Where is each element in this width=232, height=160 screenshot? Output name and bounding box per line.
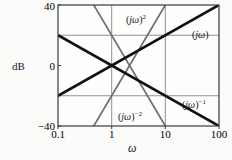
curve-annotation-jw-inverse-squared: (jω)−2 xyxy=(118,112,142,122)
xtick-label-1-wrap: 1 xyxy=(92,128,132,140)
curve-annotation-jw: (jω) xyxy=(192,30,209,40)
y-axis-label: dB xyxy=(12,61,25,72)
xtick-label-10-wrap: 10 xyxy=(145,128,185,140)
xtick-label-0p1-wrap: 0.1 xyxy=(38,128,78,140)
ytick-label-40-wrap: 40 xyxy=(26,0,55,12)
ytick-label-40: 40 xyxy=(26,0,55,12)
x-axis-label: ω xyxy=(128,142,136,154)
curve-annotation-jw-inverse: (jω)−1 xyxy=(182,100,206,110)
ytick-label-0-wrap: 0 xyxy=(26,60,55,72)
xtick-label-100-wrap: 100 xyxy=(199,128,232,140)
xtick-label-1: 1 xyxy=(92,128,132,140)
curve-annotation-jw-squared: (jω)2 xyxy=(126,15,146,25)
xtick-label-100: 100 xyxy=(199,128,232,140)
xtick-label-10: 10 xyxy=(145,128,185,140)
xtick-label-0p1: 0.1 xyxy=(38,128,78,140)
ytick-label-0: 0 xyxy=(26,60,55,72)
bode-magnitude-figure: dB 40 0 −40 0.1 1 10 100 ω (jω)2 (jω) (j… xyxy=(0,0,232,160)
